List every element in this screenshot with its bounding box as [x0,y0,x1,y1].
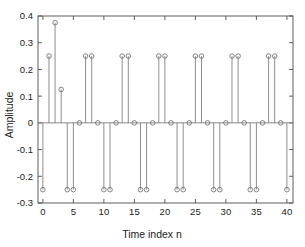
y-tick-label: -0.1 [17,144,33,155]
x-tick-label: 25 [190,206,201,217]
x-tick-label: 30 [221,206,232,217]
y-tick-label: 0.1 [20,91,33,102]
y-tick-label: -0.2 [17,171,33,182]
y-tick-label: 0 [28,117,33,128]
stem-plot-figure: -0.3-0.2-0.100.10.20.30.4 05101520253035… [0,0,305,247]
x-tick-label: 40 [282,206,293,217]
x-tick-label: 10 [99,206,110,217]
x-tick-label: 0 [40,206,45,217]
x-tick-label: 20 [160,206,171,217]
x-tick-label: 35 [251,206,262,217]
chart-canvas: -0.3-0.2-0.100.10.20.30.4 05101520253035… [0,0,305,247]
x-tick-label: 5 [71,206,76,217]
y-tick-label: 0.4 [20,10,33,21]
y-tick-label: 0.3 [20,37,33,48]
y-tick-label: 0.2 [20,64,33,75]
x-tick-label: 15 [129,206,140,217]
x-axis-title: Time index n [122,228,182,240]
y-tick-label: -0.3 [17,197,33,208]
y-axis-title: Amplitude [3,92,15,139]
